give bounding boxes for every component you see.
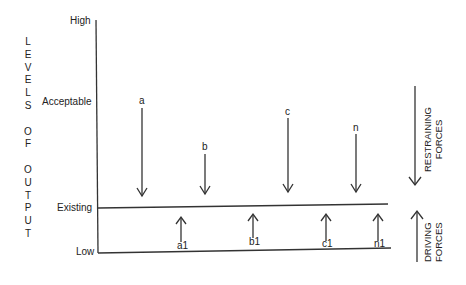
restraining-arrow-c (283, 118, 293, 192)
restraining-arrow-a (137, 108, 147, 196)
arrow-label-n1: n1 (374, 238, 385, 249)
driving-arrow-a1 (176, 217, 186, 242)
arrow-label-c1: c1 (322, 238, 333, 249)
restraining-forces-label: RESTRAINING FORCES (422, 107, 444, 172)
arrow-label-c: c (285, 106, 290, 117)
restraining-arrow-b (200, 154, 210, 194)
restraining-line2: FORCES (433, 107, 444, 172)
force-field-diagram (0, 0, 466, 285)
arrow-label-b1: b1 (249, 236, 260, 247)
arrow-label-a1: a1 (177, 240, 188, 251)
driving-arrow-c1 (321, 214, 331, 241)
low-level-line (98, 248, 391, 253)
restraining-line1: RESTRAINING (422, 107, 433, 172)
y-axis-line (96, 20, 98, 253)
restraining-legend-arrow (409, 86, 421, 185)
restraining-arrow-n (351, 134, 361, 192)
driving-forces-label: DRIVING FORCES (422, 222, 444, 262)
driving-line2: FORCES (433, 222, 444, 262)
driving-arrow-n1 (373, 214, 383, 241)
existing-level-line (98, 204, 388, 208)
arrow-label-b: b (202, 141, 208, 152)
driving-line1: DRIVING (422, 222, 433, 262)
arrow-label-n: n (353, 122, 359, 133)
arrow-label-a: a (139, 95, 145, 106)
driving-arrow-b1 (248, 214, 258, 238)
